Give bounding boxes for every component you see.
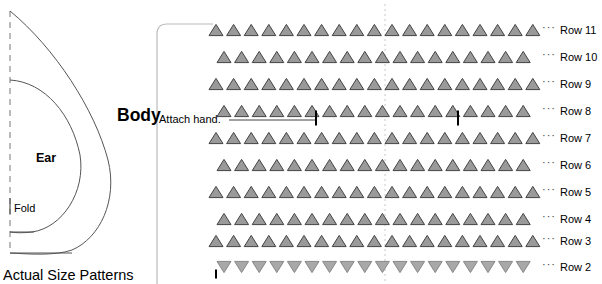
row-leader-dots: ··· [542,49,556,60]
stitch-marker [455,24,469,35]
stitch-marker [367,78,381,89]
stitch-marker [217,159,231,170]
stitch-marker [350,24,364,35]
stitch-marker [463,159,477,170]
stitch-marker [287,213,301,224]
stitch-marker [526,235,540,246]
stitch-marker [315,132,329,143]
stitch-marker [252,261,266,272]
stitch-marker [481,261,495,272]
stitch-marker [491,235,505,246]
stitch-marker [270,261,284,272]
row-label-row-6: Row 6 [560,160,591,171]
stitch-marker [473,132,487,143]
stitch-marker [420,132,434,143]
stitch-marker [227,24,241,35]
stitch-marker [420,24,434,35]
stitch-marker [446,213,460,224]
stitch-marker [438,235,452,246]
stitch-marker [499,159,513,170]
stitch-marker [305,159,319,170]
stitch-marker [508,235,522,246]
stitch-marker [217,213,231,224]
stitch-marker [411,261,425,272]
row-label-row-11: Row 11 [560,25,596,36]
stitch-marker [375,51,389,62]
stitch-marker [473,235,487,246]
fold-label: Fold [14,203,35,214]
stitch-marker [420,235,434,246]
stitch-marker [340,105,354,116]
stitch-marker [403,132,417,143]
stitch-marker [270,105,284,116]
stitch-marker [297,235,311,246]
stitch-marker [287,159,301,170]
stitch-marker [455,132,469,143]
stitch-marker [332,24,346,35]
stitch-marker [375,261,389,272]
row-label-row-2: Row 2 [560,262,591,273]
stitch-marker [323,213,337,224]
row-leader-dots: ··· [542,103,556,114]
row-leader-dots: ··· [542,211,556,222]
stitch-marker [367,24,381,35]
stitch-marker [516,105,530,116]
stitch-marker [227,235,241,246]
stitch-marker [491,132,505,143]
stitch-marker [420,78,434,89]
stitch-marker [262,235,276,246]
stitch-marker [287,51,301,62]
stitch-marker [526,24,540,35]
stitch-marker [270,159,284,170]
stitch-marker [217,51,231,62]
stitch-marker [287,261,301,272]
stitch-marker [358,105,372,116]
stitch-marker [516,51,530,62]
stitch-marker [516,261,530,272]
row-label-row-9: Row 9 [560,79,591,90]
stitch-marker [358,261,372,272]
stitch-marker [227,186,241,197]
stitch-marker [332,235,346,246]
stitch-marker [491,24,505,35]
stitch-marker [235,105,249,116]
row-leader-dots: ··· [542,184,556,195]
stitch-marker [244,132,258,143]
stitch-marker [481,51,495,62]
stitch-marker [323,51,337,62]
stitch-marker [393,261,407,272]
stitch-marker [403,186,417,197]
stitch-marker [481,159,495,170]
stitch-marker [508,186,522,197]
stitch-marker [358,159,372,170]
stitch-marker [491,78,505,89]
stitch-marker [508,132,522,143]
stitch-marker [428,159,442,170]
stitch-marker [315,235,329,246]
stitch-marker [455,78,469,89]
stitch-marker [252,159,266,170]
row-label-row-5: Row 5 [560,187,591,198]
stitch-marker [350,78,364,89]
stitch-marker [305,51,319,62]
stitch-marker [393,159,407,170]
stitch-marker [305,213,319,224]
stitch-marker [340,261,354,272]
stitch-marker [235,261,249,272]
row-label-row-8: Row 8 [560,106,591,117]
stitch-marker [463,105,477,116]
stitch-marker [279,235,293,246]
row-label-row-10: Row 10 [560,52,597,63]
stitch-marker [235,51,249,62]
stitch-marker [209,132,223,143]
stitch-marker [438,132,452,143]
stitch-marker [252,213,266,224]
stitch-marker [287,105,301,116]
stitch-marker [385,24,399,35]
stitch-marker [350,186,364,197]
stitch-marker [481,213,495,224]
stitch-marker [315,24,329,35]
stitch-marker [516,159,530,170]
stitch-marker [297,78,311,89]
stitch-marker [455,235,469,246]
